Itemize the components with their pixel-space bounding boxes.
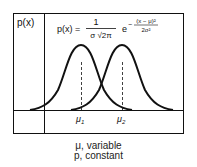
curve-1: [30, 45, 132, 110]
exp-numerator: (x − μ)²: [136, 18, 155, 24]
formula-denominator: σ √2π: [90, 31, 112, 40]
y-axis-label: p(x): [17, 17, 34, 28]
curve-2: [71, 45, 173, 110]
mean-1-label: μ1: [75, 114, 84, 125]
mean-2-label: μ2: [116, 114, 126, 125]
caption-line-2: p, constant: [0, 150, 197, 161]
exp-base: e: [122, 24, 127, 34]
exp-sign: −: [128, 21, 132, 28]
exp-denominator: 2σ²: [141, 27, 150, 33]
formula: p(x) = 1 σ √2π e − (x − μ)² 2σ²: [57, 17, 158, 40]
formula-numerator: 1: [93, 17, 98, 27]
formula-lhs: p(x) =: [57, 24, 80, 34]
